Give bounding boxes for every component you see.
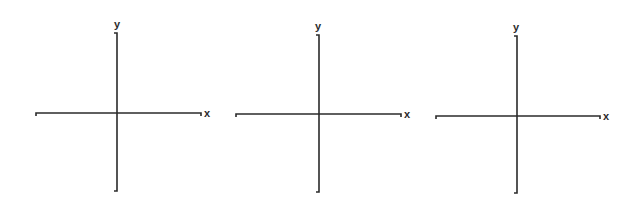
y-axis-label: y [114, 18, 121, 30]
x-axis-line [436, 116, 600, 119]
y-axis-label: y [513, 21, 520, 33]
x-axis-label: x [404, 108, 411, 120]
coordinate-axes-3: x y [436, 21, 610, 193]
diagram-canvas: x y x y x y [0, 0, 640, 200]
coordinate-axes-1: x y [36, 18, 211, 191]
y-axis-line [114, 33, 117, 191]
x-axis-line [36, 113, 201, 116]
coordinate-axes-2: x y [236, 20, 411, 192]
y-axis-line [514, 36, 517, 193]
x-axis-label: x [603, 110, 610, 122]
y-axis-label: y [315, 20, 322, 32]
x-axis-label: x [204, 107, 211, 119]
